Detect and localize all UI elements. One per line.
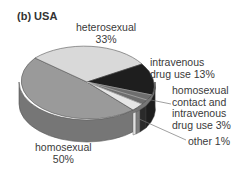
label-homo-ivdu-line4: drug use 3% [172, 120, 231, 132]
label-homosexual-name: homosexual [35, 142, 92, 154]
label-ivdu-line2: drug use 13% [150, 69, 215, 81]
label-homosexual: homosexual 50% [35, 142, 92, 165]
label-homo-ivdu-line1: homosexual [172, 85, 231, 97]
pie-top [21, 46, 154, 119]
label-other: other 1% [188, 136, 230, 148]
label-heterosexual: heterosexual 33% [76, 22, 136, 45]
label-heterosexual-value: 33% [76, 34, 136, 46]
label-other-text: other 1% [188, 136, 230, 148]
label-homosexual-value: 50% [35, 154, 92, 166]
label-ivdu-line1: intravenous [150, 57, 215, 69]
label-homo-ivdu: homosexual contact and intravenous drug … [172, 85, 231, 131]
label-homo-ivdu-line3: intravenous [172, 108, 231, 120]
label-heterosexual-name: heterosexual [76, 22, 136, 34]
label-ivdu: intravenous drug use 13% [150, 57, 215, 80]
